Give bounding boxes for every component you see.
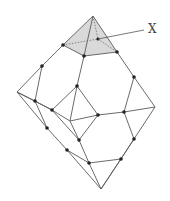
node (96, 113, 100, 117)
outer-edges (17, 45, 155, 189)
edge (101, 159, 121, 189)
edge (117, 52, 134, 77)
edge (134, 77, 155, 107)
node (50, 108, 54, 112)
edge (67, 150, 101, 189)
edge (35, 66, 42, 101)
node (82, 54, 86, 58)
edge (70, 121, 79, 140)
edge (47, 128, 67, 150)
edge (89, 163, 101, 189)
node (61, 43, 65, 47)
edge (134, 107, 155, 139)
edge (17, 66, 42, 92)
node (75, 84, 79, 88)
node (33, 99, 37, 103)
node (45, 126, 49, 130)
edge (42, 45, 63, 66)
edge (121, 139, 134, 159)
edge (124, 77, 134, 112)
node (119, 157, 123, 161)
diagram: X (0, 0, 170, 201)
edge (17, 92, 47, 128)
label-x: X (148, 22, 157, 36)
edge (77, 56, 84, 86)
edge (52, 110, 79, 140)
node (40, 64, 44, 68)
pyramid-fill (63, 16, 117, 56)
node (65, 148, 69, 152)
edge (35, 101, 47, 128)
node (115, 50, 119, 54)
edge (98, 112, 124, 115)
node (132, 137, 136, 141)
node (87, 161, 91, 165)
shaded-pyramid (63, 16, 117, 56)
edge (124, 112, 134, 139)
edge (89, 159, 121, 163)
node (132, 75, 136, 79)
edge (124, 107, 155, 112)
edge (77, 86, 98, 115)
node (122, 110, 126, 114)
node (77, 138, 81, 142)
